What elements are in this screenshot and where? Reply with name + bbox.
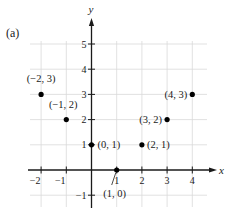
data-points: (−2, 3)(−1, 2)(0, 1)(1, 0)(2, 1)(3, 2)(4… (27, 73, 195, 200)
data-point (39, 92, 44, 97)
y-tick-label: 5 (82, 39, 87, 50)
data-point (190, 92, 195, 97)
point-label: (3, 2) (139, 114, 162, 126)
data-point (89, 142, 94, 147)
x-tick-label: −1 (55, 175, 66, 186)
x-tick-label: −2 (30, 175, 41, 186)
point-label: (2, 1) (147, 139, 170, 151)
x-axis-label: x (218, 164, 224, 176)
y-axis-arrow-icon (89, 18, 94, 26)
data-point (64, 117, 69, 122)
y-tick-label: 2 (82, 114, 87, 125)
panel-label: (a) (6, 26, 19, 40)
y-axis-label: y (88, 3, 94, 15)
scatter-plot: (a) x y −2−11234−112345 (−2, 3)(−1, 2)(0… (0, 0, 237, 218)
x-tick-label: 2 (139, 175, 144, 186)
data-point (114, 167, 119, 172)
data-point (165, 117, 170, 122)
point-label: (−1, 2) (49, 99, 78, 111)
point-label: (0, 1) (98, 139, 121, 151)
y-tick-label: −1 (76, 190, 87, 201)
x-tick-label: 4 (190, 175, 195, 186)
x-axis-arrow-icon (209, 167, 217, 172)
point-label: (4, 3) (165, 89, 188, 101)
x-tick-label: 1 (114, 175, 119, 186)
x-tick-label: 3 (165, 175, 170, 186)
y-tick-label: 4 (82, 64, 87, 75)
y-tick-label: 1 (82, 139, 87, 150)
data-point (139, 142, 144, 147)
y-tick-label: 3 (82, 89, 87, 100)
point-label: (−2, 3) (27, 73, 56, 85)
point-label: (1, 0) (103, 188, 126, 200)
